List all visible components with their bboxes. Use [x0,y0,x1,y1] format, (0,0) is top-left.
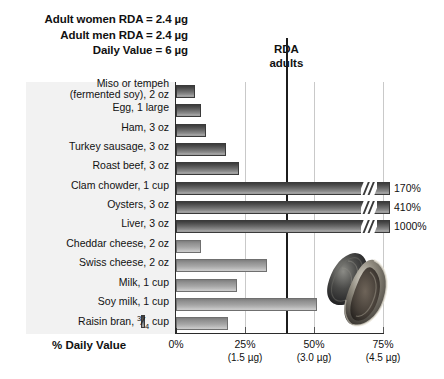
rda-note-women: Adult women RDA = 2.4 µg [8,12,188,28]
x-axis-title: % Daily Value [52,339,126,351]
x-axis-left-cap [176,328,177,334]
category-label-line2: (fermented soy), 2 oz [70,89,169,100]
category-label-text: Raisin bran, [78,315,137,327]
category-label: Turkey sausage, 3 oz [69,141,169,153]
bar [176,85,195,98]
category-label-panel: Miso or tempeh(fermented soy), 2 ozEgg, … [26,82,176,334]
category-label: Milk, 1 cup [119,277,169,289]
category-label: Roast beef, 3 oz [93,160,169,172]
x-tick-label-secondary: (3.0 µg) [279,351,349,364]
fraction-three-quarters: 3⁄4 [137,315,149,330]
x-tick-label-primary: 75% [372,338,393,350]
bar [176,279,237,292]
x-tick-label-primary: 50% [303,338,324,350]
bar [176,201,390,214]
category-label: Cheddar cheese, 2 oz [66,238,169,250]
category-label-text: cup [149,315,169,327]
x-tick-label-primary: 25% [234,338,255,350]
x-tick-25 [245,327,246,333]
x-tick-label-0: 0% [141,338,211,351]
bar [176,124,206,137]
axis-break-mark [361,201,377,214]
category-label: Liver, 3 oz [121,218,169,230]
bar [176,317,228,330]
x-tick-label-25: 25%(1.5 µg) [210,338,280,364]
bar [176,182,390,195]
bar [176,298,317,311]
category-label: Miso or tempeh(fermented soy), 2 oz [70,78,169,100]
rda-note-men: Adult men RDA = 2.4 µg [8,28,188,44]
rda-note-daily-value: Daily Value = 6 µg [8,43,188,59]
category-label: Soy milk, 1 cup [98,296,169,308]
category-label: Oysters, 3 oz [107,199,169,211]
category-label: Clam chowder, 1 cup [71,180,169,192]
bar-value-label: 1000% [394,220,427,233]
bar [176,162,239,175]
x-tick-label-75: 75%(4.5 µg) [348,338,418,364]
category-label: Ham, 3 oz [121,122,169,134]
x-axis-line [176,333,384,334]
bar [176,220,390,233]
bar-value-label: 410% [394,201,421,214]
category-label: Raisin bran, 3⁄4 cup [78,315,169,330]
axis-break-mark [361,182,377,195]
x-tick-label-primary: 0% [168,338,183,350]
x-tick-label-secondary: (1.5 µg) [210,351,280,364]
x-tick-label-secondary: (4.5 µg) [348,351,418,364]
category-label: Egg, 1 large [112,102,169,114]
bar [176,259,267,272]
axis-break-mark [361,220,377,233]
bar [176,240,201,253]
oysters-photo [322,246,402,332]
bar [176,143,226,156]
vitamin-b12-daily-value-chart: Adult women RDA = 2.4 µg Adult men RDA =… [0,0,444,379]
bar [176,104,201,117]
x-tick-50 [314,327,315,333]
rda-notes: Adult women RDA = 2.4 µg Adult men RDA =… [8,12,188,59]
x-tick-label-50: 50%(3.0 µg) [279,338,349,364]
category-label: Swiss cheese, 2 oz [79,257,169,269]
bar-value-label: 170% [394,182,421,195]
x-tick-75 [383,327,384,333]
